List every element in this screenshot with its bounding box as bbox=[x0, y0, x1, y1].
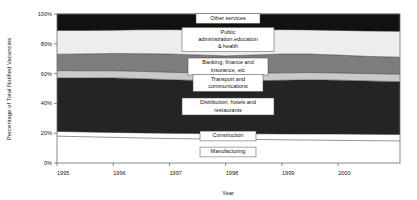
x-axis-tick-label: 1998 bbox=[226, 170, 238, 176]
callout-label: Distribution, hotels and bbox=[200, 99, 256, 105]
callout-label: communications bbox=[208, 83, 248, 89]
x-axis: 199519961997199819992000 bbox=[57, 163, 351, 176]
callout-label: administration,education bbox=[198, 36, 258, 42]
series-callout: Construction bbox=[200, 131, 256, 141]
stacked-area-chart: 0%20%40%60%80%100% 199519961997199819992… bbox=[0, 0, 417, 200]
callout-label: Construction bbox=[213, 132, 244, 138]
callout-label: Public bbox=[221, 29, 236, 35]
y-axis-title: Percentage of Total Notified Vacancies bbox=[6, 38, 12, 141]
x-axis-tick-label: 1995 bbox=[57, 170, 69, 176]
x-axis-tick-label: 1999 bbox=[282, 170, 294, 176]
x-axis-title: Year bbox=[222, 190, 234, 196]
y-axis-tick-label: 80% bbox=[41, 41, 52, 47]
series-callout: Publicadministration,education& health bbox=[182, 27, 274, 51]
callout-label: Other services bbox=[210, 15, 246, 21]
y-axis-tick-label: 20% bbox=[41, 130, 52, 136]
x-axis-tick-label: 2000 bbox=[338, 170, 350, 176]
callout-label: Manufacturing bbox=[211, 148, 246, 154]
y-axis-tick-label: 60% bbox=[41, 71, 52, 77]
series-callout: Transport andcommunications bbox=[193, 75, 263, 92]
x-axis-tick-label: 1997 bbox=[169, 170, 181, 176]
y-axis: 0%20%40%60%80%100% bbox=[38, 11, 57, 166]
callout-label: Banking, finance and bbox=[202, 59, 253, 65]
series-callout: Banking, finance andinsurance, etc bbox=[188, 58, 268, 75]
series-callout: Other services bbox=[196, 14, 260, 24]
series-callout: Manufacturing bbox=[200, 147, 256, 157]
callout-label: insurance, etc bbox=[211, 67, 245, 73]
x-axis-tick-label: 1996 bbox=[113, 170, 125, 176]
chart-canvas: 0%20%40%60%80%100% 199519961997199819992… bbox=[0, 0, 417, 200]
callout-label: Transport and bbox=[211, 76, 245, 82]
callout-label: restaurants bbox=[214, 107, 242, 113]
y-axis-tick-label: 40% bbox=[41, 100, 52, 106]
y-axis-tick-label: 100% bbox=[38, 11, 52, 17]
series-callout: Distribution, hotels andrestaurants bbox=[182, 98, 274, 115]
y-axis-tick-label: 0% bbox=[44, 160, 52, 166]
callout-label: & health bbox=[218, 43, 238, 49]
